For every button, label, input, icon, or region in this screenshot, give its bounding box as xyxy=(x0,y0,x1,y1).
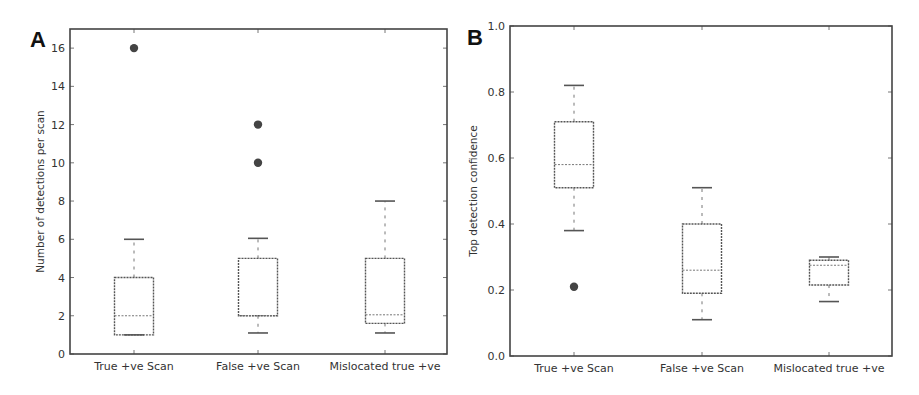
outlier-point xyxy=(130,44,138,52)
y-tick-label: 0.4 xyxy=(488,218,506,231)
box-plot-3 xyxy=(810,257,849,302)
y-tick-label: 1.0 xyxy=(488,20,506,33)
outlier-point xyxy=(254,120,262,128)
y-tick-label: 8 xyxy=(58,195,65,208)
box-plot-2 xyxy=(683,188,722,320)
y-tick-label: 4 xyxy=(58,272,65,285)
y-tick-label: 10 xyxy=(51,157,65,170)
iqr-box xyxy=(555,122,594,188)
y-tick-label: 16 xyxy=(51,42,65,55)
y-tick-label: 12 xyxy=(51,119,65,132)
y-tick-label: 2 xyxy=(58,310,65,323)
panel-b-chart: B 0.00.20.40.60.81.0True +ve ScanFalse +… xyxy=(467,20,892,375)
y-tick-label: 0.6 xyxy=(488,152,506,165)
y-tick-label: 0.8 xyxy=(488,86,506,99)
iqr-box xyxy=(810,260,849,285)
x-category-label: Mislocated true +ve xyxy=(774,362,885,375)
iqr-box xyxy=(239,258,278,315)
box-plot-2 xyxy=(239,120,278,333)
panel-b-letter: B xyxy=(467,25,483,50)
x-category-label: False +ve Scan xyxy=(216,360,300,373)
outlier-point xyxy=(570,283,578,291)
x-category-label: False +ve Scan xyxy=(660,362,744,375)
box-plot-3 xyxy=(366,201,405,333)
box-plot-1 xyxy=(115,44,154,335)
figure: A 0246810121416True +ve ScanFalse +ve Sc… xyxy=(0,0,919,395)
outlier-point xyxy=(254,159,262,167)
plot-frame xyxy=(510,26,892,356)
iqr-box xyxy=(366,258,405,323)
panel-a-chart: A 0246810121416True +ve ScanFalse +ve Sc… xyxy=(30,27,447,373)
x-category-label: True +ve Scan xyxy=(93,360,174,373)
box-plot-1 xyxy=(555,85,594,291)
panel-a-letter: A xyxy=(30,27,46,52)
y-tick-label: 0.2 xyxy=(488,284,506,297)
iqr-box xyxy=(115,278,154,335)
iqr-box xyxy=(683,224,722,293)
y-tick-label: 14 xyxy=(51,80,65,93)
y-tick-label: 0 xyxy=(58,348,65,361)
x-category-label: Mislocated true +ve xyxy=(330,360,441,373)
y-tick-label: 6 xyxy=(58,233,65,246)
x-category-label: True +ve Scan xyxy=(533,362,614,375)
y-axis-label: Number of detections per scan xyxy=(34,110,46,272)
plot-frame xyxy=(70,29,447,354)
y-axis-label: Top detection confidence xyxy=(467,125,479,257)
y-tick-label: 0.0 xyxy=(488,350,506,363)
